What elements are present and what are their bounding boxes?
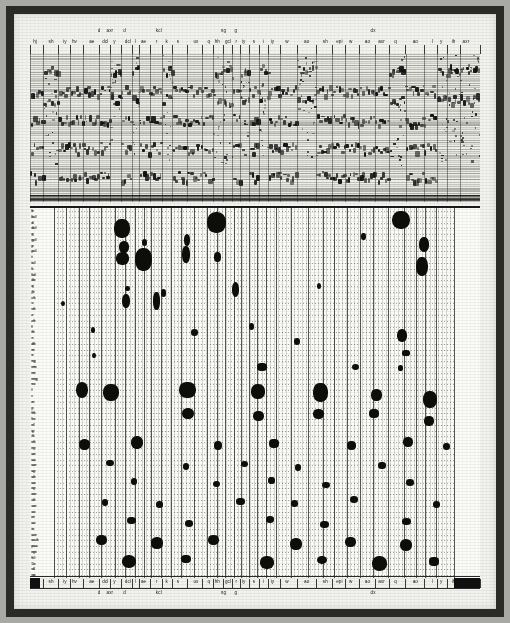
right-axis-label-ey: ey: [32, 446, 36, 450]
spectrogram-fricative-noise: [220, 142, 221, 144]
lattice-score-blob: [291, 500, 298, 507]
spectrogram-fricative-noise: [400, 109, 401, 110]
right-axis-label-ux: ux: [32, 510, 36, 514]
lattice-score-blob: [345, 537, 356, 547]
spectrogram-fricative-noise: [312, 133, 315, 134]
spectrogram-formant-energy: [173, 115, 178, 118]
spectrogram-ink: [30, 54, 480, 202]
spectrogram-formant-energy: [427, 94, 429, 96]
spectrogram-formant-energy: [252, 172, 254, 178]
spectrogram-fricative-noise: [454, 128, 457, 130]
lattice-score-blob: [161, 289, 167, 296]
spectrogram-segment-boundary: [172, 54, 173, 202]
spectrogram-fricative-noise: [111, 61, 112, 62]
lattice-score-blob: [268, 477, 274, 484]
lattice-score-blob: [122, 555, 137, 568]
spectrogram-fricative-noise: [218, 127, 219, 130]
segment-boundary-tick: [162, 45, 163, 54]
top-main-label-row: hjshiyhvaedclydcllaerksuxqhhgclriysiiywa…: [30, 39, 480, 50]
bottom-label-dcl: dcl: [125, 579, 131, 585]
segment-boundary-tick: [83, 45, 84, 54]
segment-boundary-tick: [389, 45, 390, 54]
right-axis-label-aa: aa: [32, 458, 36, 462]
spectrogram-formant-energy: [336, 86, 338, 88]
spectrogram-fricative-noise: [220, 121, 221, 123]
spectrogram-segment-boundary: [213, 54, 214, 202]
spectrogram-segment-boundary: [375, 54, 376, 202]
spectrogram-formant-energy: [49, 70, 52, 74]
segment-boundary-tick: [240, 579, 241, 588]
spectrogram-fricative-noise: [455, 55, 456, 56]
spectrogram-harmonic-band: [30, 133, 480, 134]
spectrogram-fricative-noise: [442, 86, 443, 88]
right-axis-label-tcl: tcl: [32, 261, 36, 265]
right-axis-label-ix: ix: [32, 527, 35, 531]
spectrogram-fricative-noise: [134, 153, 136, 155]
lattice-score-blob: [92, 353, 96, 359]
spectrogram-formant-energy: [193, 94, 195, 98]
spectrogram-fricative-noise: [302, 128, 304, 130]
spectrogram-fricative-noise: [313, 122, 315, 124]
bottom-label-q: q: [208, 579, 211, 585]
spectrogram-fricative-noise: [303, 110, 305, 112]
right-axis-label-sh: sh: [32, 307, 36, 311]
spectrogram-formant-energy: [326, 148, 330, 154]
spectrogram-fricative-noise: [311, 156, 314, 158]
spectrogram-formant-energy: [84, 172, 87, 178]
lattice-score-blob: [392, 211, 410, 230]
spectrogram-fricative-noise: [113, 116, 116, 117]
spectrogram-segment-boundary: [389, 54, 390, 202]
right-axis-label-bcl: bcl: [32, 215, 37, 219]
lattice-score-blob: [214, 441, 222, 450]
top-label-hj: hj: [33, 39, 37, 45]
spectrogram-formant-energy: [341, 151, 345, 155]
right-axis-label-er: er: [32, 515, 35, 519]
lattice-gridline-horizontal: [54, 327, 454, 328]
right-axis-label-s: s: [32, 301, 34, 305]
bottom-label-hh: hh: [215, 579, 220, 585]
spectrogram-fricative-noise: [54, 79, 57, 81]
spectrogram-harmonic-band: [30, 76, 480, 77]
lattice-score-blob: [371, 389, 382, 401]
spectrogram-fricative-noise: [169, 145, 171, 146]
lattice-score-blob: [295, 464, 301, 471]
spectrogram-fricative-noise: [298, 87, 299, 89]
spectrogram-fricative-noise: [401, 165, 403, 166]
bottom-label-ux: ux: [193, 579, 198, 585]
top-label-sh: sh: [49, 39, 54, 45]
spectrogram-fricative-noise: [400, 119, 402, 121]
segment-boundary-tick: [249, 45, 250, 54]
spectrogram-formant-energy: [142, 149, 145, 152]
spectrogram-formant-energy: [156, 149, 158, 151]
lattice-gridline-horizontal: [54, 535, 454, 536]
spectrogram-harmonic-band: [30, 164, 480, 165]
spectrogram-fricative-noise: [163, 115, 166, 117]
right-axis-label-f: f: [32, 325, 33, 329]
spectrogram-fricative-noise: [302, 81, 304, 83]
spectrogram-fricative-noise: [263, 155, 265, 156]
spectrogram-formant-energy: [365, 121, 367, 124]
lattice-gridline-horizontal: [54, 569, 454, 570]
lattice-gridline-horizontal: [54, 558, 454, 559]
spectrogram-formant-energy: [153, 142, 157, 147]
segment-boundary-tick: [268, 579, 269, 588]
lattice-gridline-horizontal: [54, 257, 454, 258]
top-label-axr: axr: [463, 39, 470, 45]
top-label-iy: iy: [242, 39, 246, 45]
spectrogram-fricative-noise: [309, 75, 311, 78]
lattice-score-blob: [125, 286, 130, 292]
segment-boundary-tick: [110, 45, 111, 54]
spectrogram-fricative-noise: [454, 140, 455, 142]
bottom-label-epi: epi: [336, 579, 342, 585]
spectrogram-voice-bar: [30, 200, 480, 201]
segment-boundary-tick: [280, 579, 281, 588]
lattice-score-blob: [131, 436, 143, 449]
spectrogram-segment-boundary: [202, 54, 203, 202]
lattice-gridline-horizontal: [54, 465, 454, 466]
bottom-sublabel-ng: ng: [221, 590, 226, 596]
right-axis-label-epi: epi: [32, 550, 37, 554]
bottom-label-gcl: gcl: [225, 579, 231, 585]
spectrogram-fricative-noise: [444, 129, 446, 130]
spectrogram-formant-energy: [364, 178, 366, 183]
right-axis-label-ch: ch: [32, 296, 36, 300]
